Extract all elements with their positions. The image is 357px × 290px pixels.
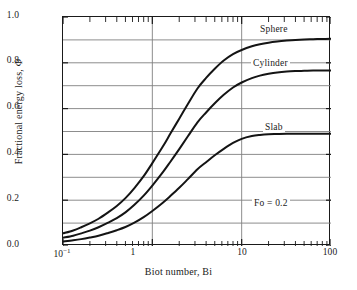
x-tick-label: 10−1: [39, 248, 85, 260]
x-axis-title: Biot number, Bi: [0, 266, 357, 277]
x-tick-exponent: −1: [63, 247, 70, 255]
chart-figure: 1.0 0.8 0.6 0.4 0.2 0.0 Fractional energ…: [0, 0, 357, 290]
series-label-slab: Slab: [263, 122, 285, 132]
series-curve-sphere: [63, 39, 331, 234]
series-label-cylinder: Cylinder: [251, 58, 290, 68]
y-tick-label: 0.0: [0, 240, 19, 250]
plot-area: [62, 16, 330, 245]
x-tick-label: 10: [219, 248, 265, 258]
x-tick-mantissa: 10: [53, 249, 63, 259]
fo-annotation: Fo = 0.2: [252, 198, 290, 208]
x-tick-label: 1: [110, 248, 156, 258]
x-tick-label: 100: [307, 248, 353, 258]
series-label-sphere: Sphere: [258, 24, 290, 34]
plot-canvas: [63, 17, 331, 246]
y-axis-title: Fractional energy loss, Φ: [13, 2, 24, 222]
